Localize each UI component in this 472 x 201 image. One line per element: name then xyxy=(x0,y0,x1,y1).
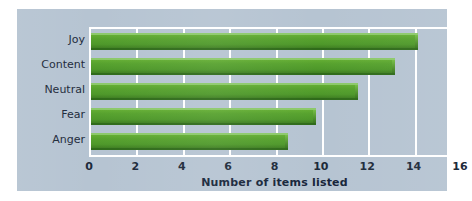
bar xyxy=(91,33,418,50)
bar-row xyxy=(91,58,462,75)
x-axis-tick-label: 10 xyxy=(301,160,341,173)
y-axis-tick-label: Anger xyxy=(19,131,85,148)
y-axis-tick-label: Joy xyxy=(19,31,85,48)
y-axis-labels: Joy Content Neutral Fear Anger xyxy=(17,27,85,157)
bar xyxy=(91,133,288,150)
plot-area xyxy=(89,27,460,157)
x-axis-tick-label: 0 xyxy=(69,160,109,173)
x-axis-tick-label: 14 xyxy=(394,160,434,173)
bar-row xyxy=(91,108,462,125)
x-axis-tick-label: 16 xyxy=(440,160,472,173)
bar-series xyxy=(91,29,458,155)
x-axis-tick-label: 6 xyxy=(208,160,248,173)
y-axis-tick-label: Neutral xyxy=(19,81,85,98)
bar xyxy=(91,83,358,100)
bar-row xyxy=(91,133,462,150)
bar xyxy=(91,108,316,125)
chart-panel: Joy Content Neutral Fear Anger 024681012… xyxy=(17,9,447,191)
bar-row xyxy=(91,33,462,50)
x-axis-tick-label: 12 xyxy=(347,160,387,173)
bar-row xyxy=(91,83,462,100)
y-axis-tick-label: Fear xyxy=(19,106,85,123)
x-axis-labels: 0246810121416 xyxy=(89,160,460,176)
x-axis-tick-label: 8 xyxy=(255,160,295,173)
bar xyxy=(91,58,395,75)
x-axis-tick-label: 2 xyxy=(115,160,155,173)
y-axis-tick-label: Content xyxy=(19,56,85,73)
x-axis-title: Number of items listed xyxy=(89,176,460,189)
x-axis-tick-label: 4 xyxy=(162,160,202,173)
